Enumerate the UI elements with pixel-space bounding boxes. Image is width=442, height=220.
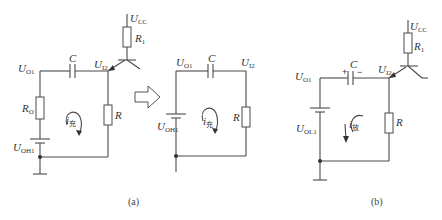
resistor-r1 [123,27,131,47]
battery-uoh1 [166,114,186,118]
label-minus: − [357,67,362,77]
label-ro: RO [21,102,34,116]
circuit-figure: UCC R1 UO1 C UI2 RO R UOH1 i充 UO1 [0,0,442,220]
caption-a: (a) [128,196,139,208]
circuit-a-left: UCC R1 UO1 C UI2 RO R UOH1 i充 [13,12,148,174]
label-uo1: UO1 [295,70,312,84]
label-uol1: UOL1 [296,122,317,136]
label-uo1: UO1 [176,56,193,70]
capacitor-c [348,71,353,85]
transistor [108,47,140,71]
circuit-a-right: UO1 C UI2 R UOH1 i充 [157,52,255,172]
resistor-r [385,113,393,133]
label-ucc: UCC [410,20,428,34]
capacitor-c [70,64,75,78]
label-r1: R1 [413,40,425,54]
label-r: R [114,109,122,121]
junction-dot [38,155,42,159]
caption-b: (b) [371,196,383,208]
battery-uoh1 [30,139,50,143]
resistor-r1 [404,33,412,53]
junction-dot [174,154,178,158]
label-r: R [232,111,240,123]
label-i-charge: i充 [203,115,213,129]
resistor-r [242,107,250,127]
label-plus: + [342,67,347,77]
label-c: C [208,52,216,64]
junction-dot [318,159,322,163]
label-ucc: UCC [130,12,148,26]
label-ui2: UI2 [94,58,108,72]
transform-arrow-icon [135,86,160,108]
transistor [389,53,428,78]
resistor-ro [36,97,44,119]
capacitor-c [208,64,213,78]
label-i-charge: i充 [66,114,76,128]
label-ui2: UI2 [378,63,392,77]
label-r: R [395,116,403,128]
label-uoh1: UOH1 [13,141,35,155]
battery-uol1 [310,108,330,112]
label-i-discharge: i放 [349,118,359,132]
label-c: C [69,52,77,64]
resistor-r [104,105,112,125]
circuit-b: UCC R1 UO1 C + − UI2 R UOL1 i放 [295,20,428,180]
label-ui2: UI2 [241,56,255,70]
label-r1: R1 [134,32,146,46]
label-uo1: UO1 [18,62,35,76]
emitter-arrow-icon [108,65,115,71]
